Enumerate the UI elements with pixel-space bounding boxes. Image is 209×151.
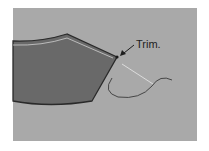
knot [115, 55, 118, 58]
trimmed-thread [122, 64, 153, 84]
arrow-line [124, 45, 134, 53]
trim-annotation: Trim. [136, 38, 161, 50]
arrow-head-icon [120, 50, 126, 56]
thread [108, 78, 172, 98]
sewing-diagram [0, 0, 209, 151]
